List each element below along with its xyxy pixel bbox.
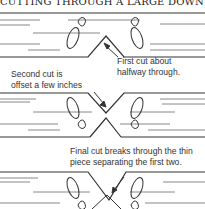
caption-line: Final cut breaks through the thin xyxy=(70,146,193,157)
panel-1-log xyxy=(0,13,205,57)
panel-3-caption: Final cut breaks through the thin piece … xyxy=(70,146,193,168)
caption-line: offset a few inches xyxy=(11,80,82,91)
panel-3-arrow-icon xyxy=(112,177,124,193)
caption-line: Second cut is xyxy=(11,69,82,80)
caption-line: piece separating the first two. xyxy=(70,157,193,168)
caption-line: First cut about xyxy=(117,56,180,67)
panel-1-caption: First cut about halfway through. xyxy=(117,56,180,78)
panel-2-caption: Second cut is offset a few inches xyxy=(11,69,82,91)
caption-line: halfway through. xyxy=(117,67,180,78)
panel-1-arrow-icon xyxy=(104,43,118,57)
panel-2-arrow-icon xyxy=(94,92,106,107)
log-cut-diagram xyxy=(0,0,205,209)
panel-3-log xyxy=(0,172,205,209)
panel-2-log xyxy=(0,93,205,137)
